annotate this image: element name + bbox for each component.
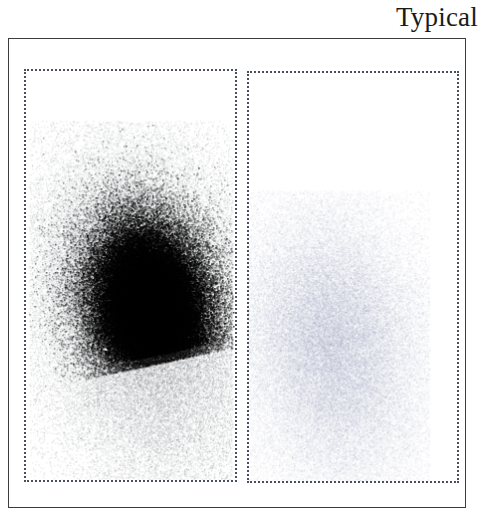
gate-left[interactable] — [24, 69, 237, 482]
plot-frame — [8, 38, 466, 508]
gate-right[interactable] — [247, 71, 459, 483]
page-title: Typical — [396, 0, 478, 34]
